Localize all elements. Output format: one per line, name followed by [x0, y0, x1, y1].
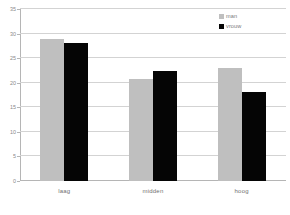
bar-chart: 05101520253035 laagmiddenhoog manvrouw: [0, 0, 290, 215]
y-axis-tick-label: 25: [0, 55, 16, 61]
y-axis-tick-label: 10: [0, 129, 16, 135]
y-axis-tick-label: 5: [0, 153, 16, 159]
x-axis-label-midden: midden: [123, 188, 183, 194]
legend-item-vrouw: vrouw: [219, 23, 241, 30]
y-axis-tick-label: 35: [0, 6, 16, 12]
y-axis-tick-label: 15: [0, 104, 16, 110]
x-axis-label-laag: laag: [34, 188, 94, 194]
plot-area: [20, 9, 286, 181]
legend-swatch-vrouw-icon: [219, 24, 224, 29]
bar-vrouw-hoog: [242, 92, 266, 181]
x-axis-label-hoog: hoog: [212, 188, 272, 194]
legend-item-man: man: [219, 13, 241, 20]
y-axis-tick-label: 30: [0, 31, 16, 37]
legend: manvrouw: [219, 13, 241, 30]
bar-man-midden: [129, 79, 153, 181]
y-axis-tick-label: 20: [0, 80, 16, 86]
bar-man-laag: [40, 39, 64, 181]
legend-label-man: man: [226, 14, 237, 20]
y-axis-tick-label: 0: [0, 178, 16, 184]
legend-label-vrouw: vrouw: [226, 24, 241, 30]
legend-swatch-man-icon: [219, 14, 224, 19]
bar-vrouw-laag: [64, 43, 88, 181]
bar-group: [129, 9, 177, 181]
bar-group: [40, 9, 88, 181]
bar-man-hoog: [218, 68, 242, 181]
bar-group: [218, 9, 266, 181]
bar-vrouw-midden: [153, 71, 177, 181]
y-axis-tick-mark: [17, 181, 20, 182]
